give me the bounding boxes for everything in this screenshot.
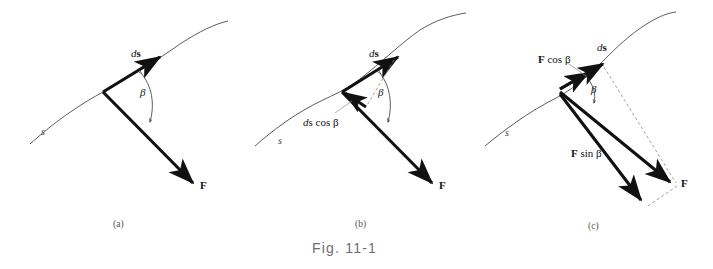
curve-label-b: s <box>278 136 282 146</box>
ds-label-a: ds <box>131 48 141 59</box>
ds-vector-a <box>103 57 160 92</box>
ds-label-c: ds <box>597 42 607 53</box>
f-sin-beta-label-c-f: F <box>571 147 578 159</box>
ds-cos-beta-leader-b <box>335 101 352 113</box>
force-vector-a <box>103 92 193 183</box>
curve-label-a: s <box>41 127 45 137</box>
panel-c-graphics <box>485 12 677 206</box>
force-vector-b <box>342 92 432 183</box>
panel-label-b: (b) <box>355 220 366 230</box>
f-cos-beta-label-c: F cos β <box>538 54 571 65</box>
f-sin-beta-label-c-rest: sin β <box>578 147 602 159</box>
beta-label-c: β <box>591 84 596 95</box>
ds-label-a-s: s <box>137 47 141 59</box>
ds-label-c-s: s <box>603 41 607 53</box>
force-label-b: F <box>439 180 446 191</box>
f-sin-beta-label-c: F sin β <box>571 148 602 159</box>
ds-label-b-s: s <box>375 47 379 59</box>
beta-label-b: β <box>378 87 383 98</box>
ds-vector-b <box>342 57 398 92</box>
figure-caption: Fig. 11-1 <box>312 240 377 256</box>
path-curve-a <box>30 21 228 144</box>
ds-cos-beta-label-b: ds cos β <box>303 117 339 128</box>
ds-cos-beta-label-b-rest: s cos β <box>309 116 339 128</box>
force-label-a: F <box>200 180 207 191</box>
panel-label-a: (a) <box>113 220 124 230</box>
curve-label-c: s <box>505 128 509 138</box>
dashed-parallel-fsin-c <box>648 186 677 206</box>
ds-label-b: ds <box>369 48 379 59</box>
force-label-c: F <box>681 178 688 189</box>
f-cos-beta-label-c-f: F <box>538 53 545 65</box>
panel-label-c: (c) <box>588 222 599 232</box>
figure-11-1: ds β F s (a) ds β F ds cos β s (b) ds F … <box>0 0 713 269</box>
panel-a-graphics <box>30 21 228 183</box>
f-cos-beta-label-c-rest: cos β <box>545 53 571 65</box>
beta-label-a: β <box>140 87 145 98</box>
panel-b-graphics <box>255 13 466 183</box>
